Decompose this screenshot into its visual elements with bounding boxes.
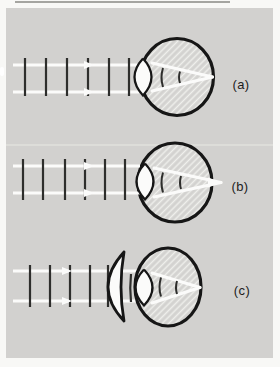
scan-artifact-speck <box>0 67 4 76</box>
wavefront-arc <box>179 72 180 84</box>
wavefront-arc <box>180 176 181 189</box>
label-b: (b) <box>231 179 248 194</box>
label-a: (a) <box>232 77 249 92</box>
wavefront-line <box>130 274 131 302</box>
label-c: (c) <box>234 283 250 298</box>
wavefront-arc <box>176 281 177 294</box>
diagram-panel: (a) (b) <box>6 8 273 358</box>
scan-artifact-line <box>15 1 230 3</box>
eye-optics-diagram: (a) (b) <box>6 8 273 358</box>
